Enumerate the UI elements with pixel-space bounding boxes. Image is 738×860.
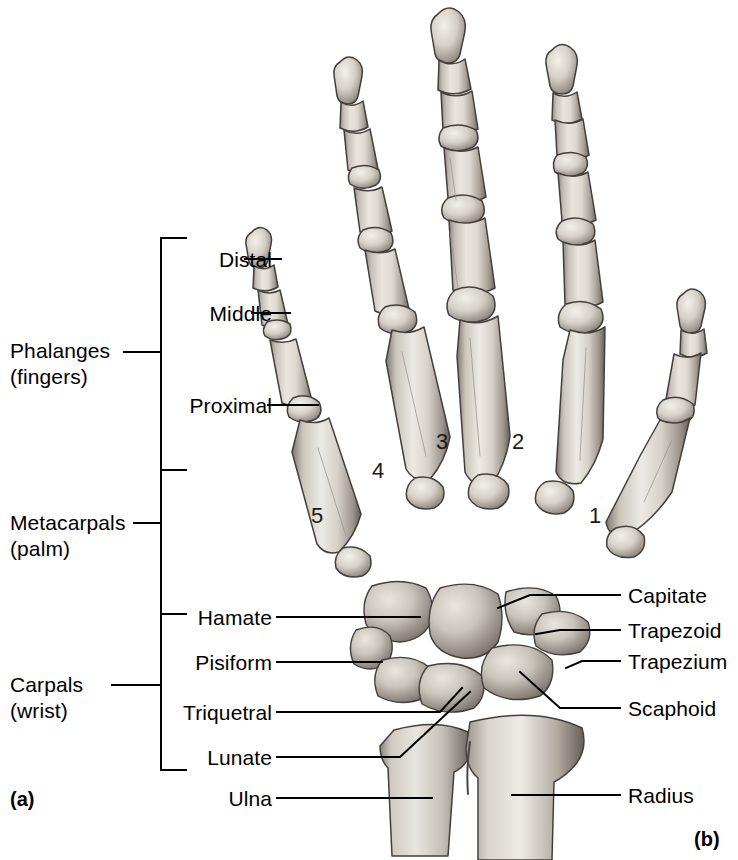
label-proximal: Proximal [72,393,272,419]
group-label-metacarpals-line2: (palm) [10,537,70,560]
metacarpal-number-2: 2 [512,429,524,455]
label-scaphoid: Scaphoid [628,696,716,722]
label-trapezoid: Trapezoid [628,618,722,644]
label-middle: Middle [72,301,272,327]
metacarpal-number-1: 1 [589,503,601,529]
label-triquetral: Triquetral [72,700,272,726]
metacarpal-number-5: 5 [311,503,323,529]
label-pisiform: Pisiform [72,650,272,676]
label-trapezium: Trapezium [628,649,727,675]
leader-lunate [277,692,470,757]
leader-scaphoid [520,672,620,708]
group-label-metacarpals-line1: Metacarpals [10,511,125,534]
metacarpal-number-4: 4 [372,458,384,484]
label-lunate: Lunate [72,745,272,771]
label-ulna: Ulna [72,786,272,812]
group-label-carpals-line2: (wrist) [10,699,68,722]
figure-canvas: Phalanges (fingers) Metacarpals (palm) C… [0,0,738,860]
label-capitate: Capitate [628,583,707,609]
panel-tag-a: (a) [10,788,34,811]
group-label-phalanges: Phalanges (fingers) [10,338,110,389]
group-label-phalanges-line2: (fingers) [10,365,88,388]
group-label-carpals-line1: Carpals [10,673,83,696]
leader-trapezium [566,661,620,668]
leader-trapezoid [536,630,620,634]
label-distal: Distal [72,247,272,273]
label-hamate: Hamate [72,605,272,631]
panel-tag-b: (b) [694,828,720,851]
group-label-phalanges-line1: Phalanges [10,339,110,362]
leader-capitate [498,595,620,608]
label-radius: Radius [628,783,694,809]
group-label-metacarpals: Metacarpals (palm) [10,510,125,561]
leader-triquetral [277,688,462,712]
metacarpal-number-3: 3 [436,429,448,455]
label-overlay [0,0,738,860]
